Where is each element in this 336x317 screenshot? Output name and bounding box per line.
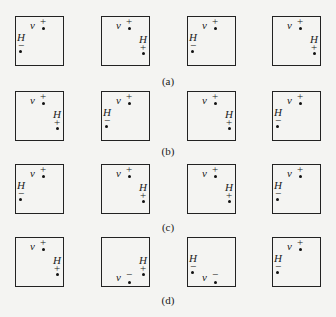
row-caption: (a)	[148, 76, 188, 87]
H-dot	[56, 127, 59, 130]
v-label: v	[116, 95, 121, 106]
v-sign: +	[126, 16, 132, 27]
config-box: v−H+	[101, 237, 150, 287]
config-box: v+H+	[272, 16, 321, 66]
config-box: v−H−	[187, 237, 236, 287]
v-label: v	[287, 20, 292, 31]
H-dot	[142, 273, 145, 276]
config-box: v+H−	[15, 164, 64, 214]
config-box: v+H−	[272, 164, 321, 214]
row-caption: (d)	[148, 295, 188, 306]
H-dot	[142, 200, 145, 203]
v-dot	[42, 175, 45, 178]
v-dot	[128, 27, 131, 30]
config-box: v+H−	[101, 91, 150, 141]
config-box: v+H+	[187, 91, 236, 141]
H-dot	[276, 198, 279, 201]
v-dot	[299, 248, 302, 251]
v-label: v	[202, 168, 207, 179]
config-box: v+H+	[15, 91, 64, 141]
v-sign: +	[212, 16, 218, 27]
H-dot	[19, 50, 22, 53]
v-sign: +	[40, 164, 46, 175]
v-sign: +	[297, 164, 303, 175]
v-dot	[214, 102, 217, 105]
H-dot	[19, 198, 22, 201]
H-dot	[276, 271, 279, 274]
v-label: v	[30, 20, 35, 31]
v-sign: +	[126, 164, 132, 175]
v-dot	[299, 102, 302, 105]
v-label: v	[202, 95, 207, 106]
v-dot	[42, 248, 45, 251]
row-caption: (c)	[148, 222, 188, 233]
H-dot	[142, 52, 145, 55]
v-label: v	[30, 168, 35, 179]
v-dot	[214, 175, 217, 178]
config-box: v+H+	[187, 164, 236, 214]
v-sign: +	[297, 237, 303, 248]
v-dot	[128, 175, 131, 178]
v-sign: +	[40, 237, 46, 248]
config-box: v+H+	[101, 16, 150, 66]
v-label: v	[287, 95, 292, 106]
H-dot	[56, 273, 59, 276]
v-sign: +	[297, 91, 303, 102]
v-dot	[214, 281, 217, 284]
H-dot	[105, 125, 108, 128]
v-sign: −	[126, 269, 132, 280]
H-dot	[191, 271, 194, 274]
H-dot	[313, 52, 316, 55]
config-box: v+H+	[101, 164, 150, 214]
v-sign: −	[212, 269, 218, 280]
v-sign: +	[212, 91, 218, 102]
H-dot	[276, 125, 279, 128]
H-dot	[228, 127, 231, 130]
v-dot	[299, 175, 302, 178]
v-label: v	[116, 168, 121, 179]
v-label: v	[116, 272, 121, 283]
v-sign: +	[40, 16, 46, 27]
v-dot	[128, 102, 131, 105]
v-dot	[128, 281, 131, 284]
v-sign: +	[297, 16, 303, 27]
v-sign: +	[40, 91, 46, 102]
config-box: v+H−	[272, 91, 321, 141]
v-label: v	[202, 272, 207, 283]
v-dot	[42, 102, 45, 105]
v-label: v	[116, 20, 121, 31]
v-label: v	[30, 241, 35, 252]
row-caption: (b)	[148, 146, 188, 157]
v-label: v	[202, 20, 207, 31]
v-label: v	[287, 168, 292, 179]
config-box: v+H+	[15, 237, 64, 287]
v-sign: +	[212, 164, 218, 175]
v-dot	[214, 27, 217, 30]
H-dot	[191, 50, 194, 53]
v-dot	[299, 27, 302, 30]
v-label: v	[287, 241, 292, 252]
config-box: v+H−	[187, 16, 236, 66]
config-box: v+H−	[15, 16, 64, 66]
config-box: v+H−	[272, 237, 321, 287]
v-sign: +	[126, 91, 132, 102]
v-dot	[42, 27, 45, 30]
v-label: v	[30, 95, 35, 106]
H-dot	[228, 200, 231, 203]
